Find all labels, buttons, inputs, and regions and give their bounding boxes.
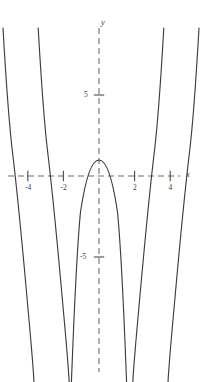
y-tick-label-pos5: 5 bbox=[84, 91, 88, 99]
x-tick-label-pos2: 2 bbox=[133, 184, 137, 192]
curve-left-inner-branch bbox=[38, 28, 69, 382]
y-axis-label: y bbox=[101, 18, 105, 27]
function-curves bbox=[3, 28, 199, 382]
x-tick-label-neg4: -4 bbox=[25, 184, 31, 192]
curve-right-inner-branch bbox=[133, 28, 164, 382]
x-axis-label: x bbox=[186, 170, 190, 179]
x-tick-label-pos4: 4 bbox=[169, 184, 173, 192]
y-tick-label-neg5: -5 bbox=[80, 253, 86, 261]
graph-figure: -4 -2 2 4 5 -5 y x bbox=[0, 0, 202, 382]
x-tick-label-neg2: -2 bbox=[61, 184, 67, 192]
curve-left-outer-branch bbox=[3, 28, 34, 382]
curve-right-outer-branch bbox=[168, 28, 199, 382]
